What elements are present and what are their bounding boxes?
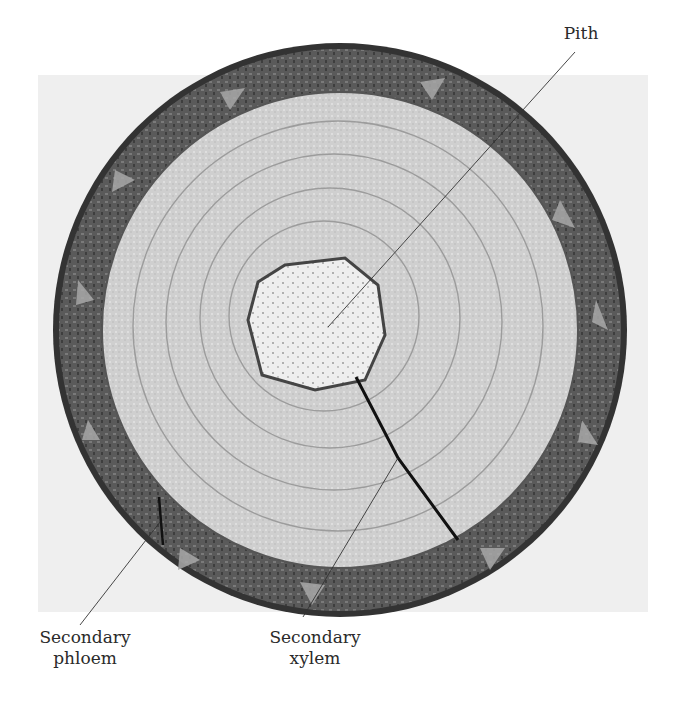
label-secondary-xylem: Secondary xylem — [260, 627, 370, 669]
pith — [248, 258, 385, 390]
label-line-1: Secondary — [30, 627, 140, 648]
micrograph — [0, 0, 680, 703]
label-line-2: phloem — [30, 648, 140, 669]
label-line-2: xylem — [260, 648, 370, 669]
label-pith-text: Pith — [556, 23, 606, 44]
stem-cross-section-figure: Pith Secondary phloem Secondary xylem — [0, 0, 680, 703]
label-line-1: Secondary — [260, 627, 370, 648]
label-pith: Pith — [556, 23, 606, 44]
label-secondary-phloem: Secondary phloem — [30, 627, 140, 669]
stem — [53, 43, 627, 617]
